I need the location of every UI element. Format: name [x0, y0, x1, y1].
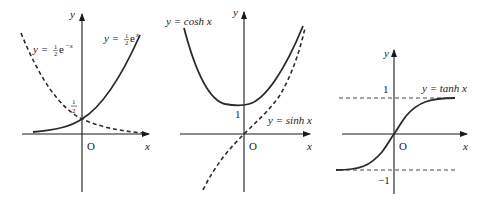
panel-exponential: y x O 1 2 y = 1 2 e x y = 1 2 e −x [21, 8, 150, 192]
tanh-label: y = tanh x [421, 82, 467, 94]
x-axis-label: x [306, 140, 312, 152]
svg-text:1: 1 [125, 32, 128, 39]
svg-text:y =: y = [103, 32, 119, 44]
y-axis-label: y [69, 8, 75, 20]
x-axis-label: x [144, 140, 150, 152]
label-half-exp-neg-x: y = 1 2 e −x [32, 42, 74, 57]
panel-cosh-sinh: y x O 1 y = cosh x y = sinh x [165, 6, 312, 192]
upper-asymptote-label: 1 [383, 83, 389, 95]
label-half-exp-x: y = 1 2 e x [103, 31, 140, 46]
sinh-label: y = sinh x [267, 114, 312, 126]
curve-half-exp-x [33, 35, 140, 132]
origin-label: O [399, 140, 407, 152]
svg-text:2: 2 [54, 50, 57, 57]
svg-text:e: e [130, 32, 135, 44]
svg-text:−x: −x [65, 42, 74, 50]
cosh-intercept-label: 1 [235, 108, 241, 120]
y-axis-label: y [232, 6, 238, 18]
svg-text:2: 2 [125, 39, 128, 46]
curve-sinh [203, 28, 305, 190]
panel-tanh: y x O 1 −1 y = tanh x [336, 47, 468, 194]
svg-text:1: 1 [54, 43, 57, 50]
x-axis-label: x [462, 140, 468, 152]
hyperbolic-functions-diagram: y x O 1 2 y = 1 2 e x y = 1 2 e −x [0, 0, 489, 204]
intercept-numerator: 1 [72, 98, 76, 106]
svg-text:e: e [59, 43, 64, 55]
cosh-label: y = cosh x [165, 15, 212, 27]
svg-text:y =: y = [32, 43, 48, 55]
intercept-denominator: 2 [72, 107, 76, 115]
origin-label: O [249, 140, 257, 152]
y-axis-label: y [383, 47, 389, 59]
lower-asymptote-label: −1 [378, 174, 390, 186]
origin-label: O [87, 140, 95, 152]
